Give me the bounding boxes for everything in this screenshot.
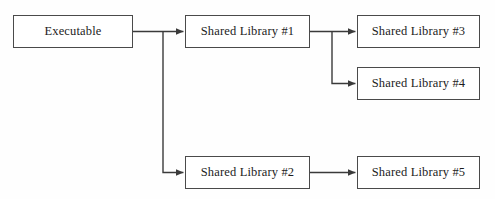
node-shared-library-1-label: Shared Library #1	[201, 25, 295, 38]
edge-executable-to-sl2	[163, 32, 183, 173]
node-shared-library-3-label: Shared Library #3	[372, 25, 466, 38]
node-shared-library-1[interactable]: Shared Library #1	[185, 15, 310, 48]
dependency-diagram: Executable Shared Library #1 Shared Libr…	[0, 0, 495, 199]
node-shared-library-4[interactable]: Shared Library #4	[357, 67, 480, 100]
node-shared-library-4-label: Shared Library #4	[372, 77, 466, 90]
node-shared-library-2-label: Shared Library #2	[201, 166, 295, 179]
node-shared-library-3[interactable]: Shared Library #3	[357, 15, 480, 48]
node-shared-library-5[interactable]: Shared Library #5	[357, 156, 480, 189]
node-executable-label: Executable	[44, 25, 101, 38]
edge-sl1-to-sl4	[332, 32, 355, 84]
node-shared-library-2[interactable]: Shared Library #2	[185, 156, 310, 189]
node-executable[interactable]: Executable	[13, 15, 133, 48]
node-shared-library-5-label: Shared Library #5	[372, 166, 466, 179]
